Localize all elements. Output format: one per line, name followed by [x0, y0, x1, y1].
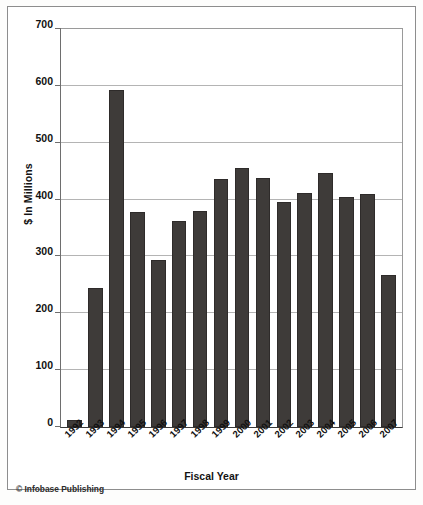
- y-tick-label-300: 300: [35, 245, 53, 257]
- bar-2007: [381, 275, 396, 427]
- y-tick-label-500: 500: [35, 132, 53, 144]
- x-tick-slot-2002: 2002: [274, 430, 295, 474]
- y-axis-title: $ In Millions: [22, 149, 34, 239]
- bar-slot-1996: [148, 29, 169, 427]
- bar-slot-2000: [232, 29, 253, 427]
- y-tick-label-400: 400: [35, 189, 53, 201]
- bar-1993: [88, 288, 103, 427]
- bar-2001: [256, 178, 271, 427]
- x-tick-slot-1997: 1997: [168, 430, 189, 474]
- bar-slot-2003: [294, 29, 315, 427]
- bar-1997: [172, 221, 187, 427]
- bar-1996: [151, 260, 166, 427]
- bar-slot-2004: [315, 29, 336, 427]
- x-tick-slot-2004: 2004: [316, 430, 337, 474]
- x-tick-slot-2007: 2007: [379, 430, 400, 474]
- x-tick-slot-1999: 1999: [210, 430, 231, 474]
- bar-slot-2002: [273, 29, 294, 427]
- bar-1995: [130, 212, 145, 427]
- bar-2005: [339, 197, 354, 427]
- bar-slot-1992: [64, 29, 85, 427]
- x-tick-slot-1996: 1996: [147, 430, 168, 474]
- bar-slot-1997: [169, 29, 190, 427]
- bar-2002: [277, 202, 292, 427]
- x-tick-slot-1998: 1998: [189, 430, 210, 474]
- x-axis-tick-labels: 1992199319941995199619971998199920002001…: [60, 430, 403, 474]
- bar-slot-1993: [85, 29, 106, 427]
- x-tick-slot-1992: 1992: [63, 430, 84, 474]
- bar-series: [61, 29, 402, 427]
- chart-figure: $ In Millions 0100200300400500600700 199…: [0, 0, 423, 505]
- y-tick-label-0: 0: [47, 416, 53, 428]
- bar-2006: [360, 194, 375, 427]
- bar-2004: [318, 173, 333, 427]
- x-tick-slot-1995: 1995: [126, 430, 147, 474]
- x-tick-slot-1993: 1993: [84, 430, 105, 474]
- y-tick-label-100: 100: [35, 359, 53, 371]
- bar-slot-1994: [106, 29, 127, 427]
- bar-slot-2007: [378, 29, 399, 427]
- bar-1994: [109, 90, 124, 427]
- bar-1998: [193, 211, 208, 427]
- copyright-credit: © Infobase Publishing: [16, 484, 104, 494]
- y-tick-label-700: 700: [35, 18, 53, 30]
- x-tick-slot-2001: 2001: [253, 430, 274, 474]
- x-tick-slot-2006: 2006: [358, 430, 379, 474]
- bar-slot-2006: [357, 29, 378, 427]
- y-tick-label-600: 600: [35, 75, 53, 87]
- x-axis-title: Fiscal Year: [0, 470, 423, 482]
- x-tick-slot-2000: 2000: [232, 430, 253, 474]
- y-tick-label-200: 200: [35, 302, 53, 314]
- plot-area: 0100200300400500600700: [60, 28, 403, 428]
- bar-1999: [214, 179, 229, 427]
- bar-2003: [297, 193, 312, 427]
- bar-slot-1999: [211, 29, 232, 427]
- x-tick-slot-2005: 2005: [337, 430, 358, 474]
- bar-slot-2001: [252, 29, 273, 427]
- bar-slot-2005: [336, 29, 357, 427]
- x-tick-slot-1994: 1994: [105, 430, 126, 474]
- x-tick-slot-2003: 2003: [295, 430, 316, 474]
- bar-2000: [235, 168, 250, 427]
- bar-slot-1995: [127, 29, 148, 427]
- bar-slot-1998: [190, 29, 211, 427]
